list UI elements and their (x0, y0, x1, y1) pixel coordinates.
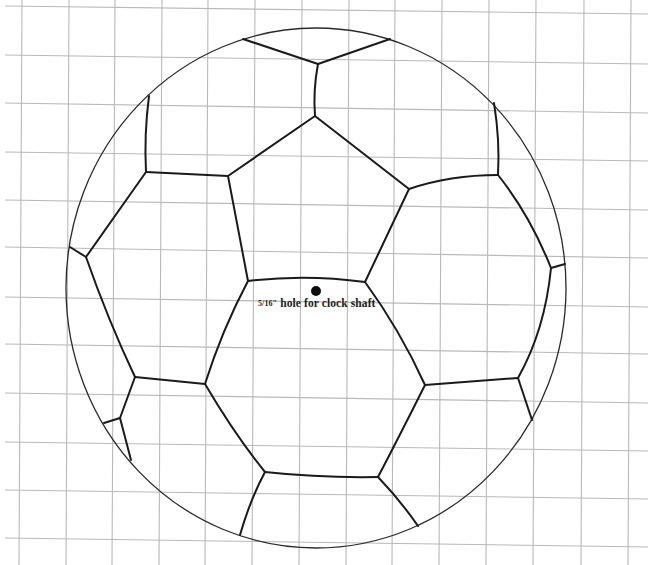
left-hex-bottom (135, 377, 205, 384)
right-seam-to-rim (518, 378, 532, 420)
right-hex-bottom (425, 378, 518, 385)
grid-line-vertical (628, 0, 631, 565)
grid-line-vertical (533, 0, 536, 565)
left-hex-upper (86, 172, 146, 257)
grid-line-vertical (581, 0, 584, 565)
right-seam-down (498, 175, 551, 268)
right-seam-tick (551, 264, 565, 268)
center-pentagon (228, 116, 409, 282)
hole-annotation: 5/16" hole for clock shaft (258, 297, 376, 309)
grid-line-horizontal (5, 538, 648, 547)
grid-line-horizontal (5, 6, 648, 14)
grid-line-horizontal (5, 393, 648, 403)
grid-line-horizontal (5, 442, 648, 451)
lower-left-tick (104, 418, 120, 423)
grid-line-vertical (299, 0, 302, 565)
grid-paper (5, 0, 648, 565)
upper-left-seam-vertical (145, 96, 149, 172)
bottom-seam-right (378, 477, 418, 526)
grid-line-vertical (346, 0, 349, 565)
soccer-ball-diagram (0, 0, 648, 565)
grid-line-vertical (439, 0, 442, 565)
lower-left-seam (120, 377, 135, 418)
grid-line-vertical (19, 0, 22, 565)
upper-left-seam-bottom (146, 172, 228, 176)
grid-line-vertical (205, 0, 208, 565)
grid-line-vertical (112, 0, 115, 565)
grid-line-horizontal (5, 490, 648, 499)
grid-line-horizontal (5, 103, 648, 113)
hole-annotation-text: hole for clock shaft (277, 297, 375, 309)
grid-line-horizontal (5, 344, 648, 354)
center-hex-left (205, 281, 248, 384)
lower-left-to-rim (120, 418, 131, 460)
clock-shaft-hole (311, 286, 321, 296)
hole-size-fraction: 5/16" (258, 299, 277, 308)
grid-line-horizontal (5, 247, 648, 258)
grid-line-horizontal (5, 55, 648, 64)
grid-line-vertical (486, 0, 489, 565)
bottom-pentagon-top (265, 472, 378, 477)
upper-right-seam-top (409, 175, 498, 189)
grid-line-vertical (252, 0, 255, 565)
upper-right-seam-vertical (494, 103, 499, 175)
grid-line-vertical (392, 0, 395, 565)
left-hex-lower (86, 257, 135, 377)
